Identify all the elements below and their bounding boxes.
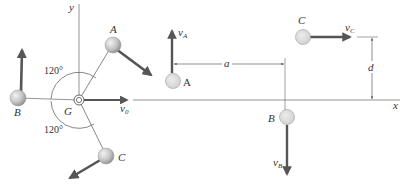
dimension-a-label: a (224, 57, 230, 69)
center-of-mass-inner (76, 97, 81, 102)
right-figure: x A vA a B vB C vC d (133, 14, 400, 174)
rod-to-A (79, 47, 111, 100)
ball-B-right (280, 110, 295, 125)
ball-C-right (296, 30, 311, 45)
vA-label: vA (178, 26, 188, 40)
x-axis-left (18, 98, 79, 100)
ball-C-right-label: C (298, 14, 306, 26)
rod-to-C (79, 100, 105, 153)
vC-label: vC (345, 21, 355, 35)
velocity-arrow-A-left (116, 49, 151, 75)
y-axis-label: y (68, 1, 74, 13)
angle-label-bottom: 120° (44, 124, 63, 135)
ball-A-right (166, 74, 181, 89)
ball-B-left (10, 90, 26, 106)
v0-label: v0 (120, 102, 129, 116)
ball-A-left (105, 37, 121, 53)
ball-A-right-label: A (183, 76, 191, 88)
dimension-d-label: d (368, 61, 374, 73)
ball-C-left (98, 148, 114, 164)
center-of-mass-label: G (64, 105, 72, 117)
x-axis-label: x (392, 99, 398, 111)
velocity-arrow-B-left (21, 50, 22, 92)
ball-B-left-label: B (14, 106, 21, 118)
angle-label-top: 120° (44, 65, 63, 76)
ball-C-left-label: C (118, 151, 126, 163)
physics-diagram: y 120° 120° B A C v0 G x (0, 0, 405, 187)
ball-B-right-label: B (268, 112, 275, 124)
ball-A-left-label: A (109, 23, 117, 35)
angle-arc-top (51, 72, 96, 99)
velocity-arrow-C-left (70, 159, 102, 178)
vB-label: vB (273, 156, 283, 170)
left-figure: y 120° 120° B A C v0 G (10, 1, 151, 178)
